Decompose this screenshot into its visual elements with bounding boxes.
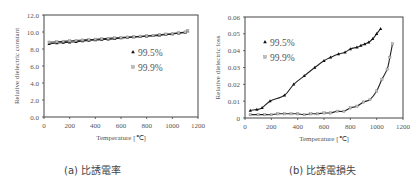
data-point-square [264, 113, 266, 115]
data-point-square [178, 32, 180, 34]
legend-triangle-icon [131, 50, 135, 53]
data-point-square [107, 37, 109, 39]
y-tick-label: 0.06 [228, 14, 241, 22]
plot-frame [44, 15, 198, 117]
data-point-square [362, 101, 364, 103]
y-tick-label: 4.0 [30, 80, 39, 88]
data-point-square [158, 33, 160, 35]
plot-frame [245, 17, 403, 118]
legend-square-icon [132, 66, 135, 69]
legend-label: 99.5% [270, 38, 295, 48]
data-point-square [48, 41, 50, 43]
data-point-square [316, 113, 318, 115]
data-point-square [249, 113, 251, 115]
x-tick-label: 1000 [370, 123, 385, 131]
x-tick-label: 200 [64, 122, 75, 130]
y-tick-label: 2.0 [30, 97, 39, 105]
caption-b: (b) 比誘電損失 [289, 162, 356, 177]
data-point-square [165, 33, 167, 35]
data-point-square [336, 110, 338, 112]
data-point-square [329, 112, 331, 114]
data-point-square [139, 35, 141, 37]
x-tick-label: 400 [292, 123, 303, 131]
data-point-square [68, 40, 70, 42]
y-axis-label: Relative dielectric constant [13, 28, 21, 104]
x-axis-label: Temperature [℃] [299, 135, 349, 143]
data-point-square [88, 38, 90, 40]
data-point-square [187, 30, 189, 32]
y-tick-label: 0.04 [228, 47, 241, 55]
y-tick-label: 0.02 [228, 81, 241, 89]
data-point-square [323, 112, 325, 114]
data-point-square [75, 39, 77, 41]
chart-relative-dielectric-constant: 0.02.04.06.08.010.012.002004006008001000… [0, 0, 210, 150]
y-axis-label: Relative dielectric loss [214, 35, 222, 99]
data-point-square [62, 40, 64, 42]
y-tick-label: 0.05 [228, 30, 241, 38]
x-tick-label: 600 [319, 123, 330, 131]
x-tick-label: 0 [42, 122, 46, 130]
x-tick-label: 800 [141, 122, 152, 130]
data-point-square [375, 90, 377, 92]
data-point-square [343, 110, 345, 112]
x-tick-label: 0 [243, 123, 247, 131]
data-point-square [296, 113, 298, 115]
y-tick-label: 8.0 [30, 46, 39, 54]
y-tick-label: 10.0 [27, 29, 40, 37]
caption-a: (a) 比誘電率 [64, 162, 121, 177]
data-point-square [94, 38, 96, 40]
legend-triangle-icon [263, 40, 267, 43]
legend-label: 99.5% [138, 48, 163, 58]
data-point-square [101, 38, 103, 40]
chart-a-plot: 0.02.04.06.08.010.012.002004006008001000… [0, 0, 210, 150]
data-point-square [120, 36, 122, 38]
data-point-square [356, 105, 358, 107]
x-tick-label: 200 [266, 123, 277, 131]
y-tick-label: 0.01 [228, 98, 241, 106]
x-tick-label: 600 [116, 122, 127, 130]
data-point-square [310, 113, 312, 115]
data-point-square [290, 113, 292, 115]
x-tick-label: 1200 [191, 122, 206, 130]
y-tick-label: 0 [237, 115, 241, 123]
y-tick-label: 6.0 [30, 63, 39, 71]
data-point-square [283, 113, 285, 115]
data-point-square [391, 43, 393, 45]
data-point-square [257, 113, 259, 115]
data-point-square [113, 37, 115, 39]
data-point-square [152, 34, 154, 36]
data-point-square [81, 39, 83, 41]
data-point-square [349, 107, 351, 109]
chart-relative-dielectric-loss: 00.010.020.030.040.050.06020040060080010… [210, 0, 419, 150]
x-tick-label: 800 [345, 123, 356, 131]
data-point-square [56, 41, 58, 43]
data-point-square [381, 78, 383, 80]
data-point-square [145, 35, 147, 37]
data-point-square [171, 33, 173, 35]
data-point-square [270, 113, 272, 115]
data-point-square [389, 56, 391, 58]
data-point-square [386, 68, 388, 70]
x-tick-label: 1000 [165, 122, 180, 130]
data-point-triangle [379, 27, 382, 30]
x-axis-label: Temperature [℃] [96, 134, 146, 142]
x-tick-label: 1200 [396, 123, 411, 131]
data-point-square [126, 36, 128, 38]
data-point-square [184, 31, 186, 33]
data-point-square [277, 113, 279, 115]
x-tick-label: 400 [90, 122, 101, 130]
y-tick-label: 0.03 [228, 64, 241, 72]
data-point-square [369, 98, 371, 100]
legend-label: 99.9% [270, 53, 295, 63]
data-point-square [303, 113, 305, 115]
legend-label: 99.9% [138, 63, 163, 73]
legend-square-icon [264, 56, 267, 59]
y-tick-label: 0.0 [30, 114, 39, 122]
chart-b-plot: 00.010.020.030.040.050.06020040060080010… [210, 0, 419, 150]
y-tick-label: 12.0 [27, 12, 40, 20]
data-point-square [133, 35, 135, 37]
